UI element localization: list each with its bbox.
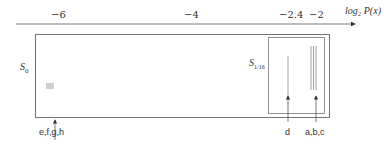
group-label-d: d	[285, 128, 290, 137]
tick-label: −2.4	[279, 10, 303, 20]
efgh-ticks	[47, 83, 53, 89]
set-s1-16-label: S1/16	[249, 58, 265, 70]
axis-label: log₂ P(x)	[345, 6, 381, 16]
set-s1-16-subscript: 1/16	[254, 64, 265, 70]
set-s0-box	[36, 35, 330, 118]
tick-label: −2	[309, 10, 324, 20]
abc-lines	[311, 46, 316, 90]
diagram-canvas	[0, 0, 392, 147]
group-label-efgh: e,f,g,h	[39, 128, 64, 137]
set-s0-label: S0	[20, 62, 29, 75]
tick-label: −4	[184, 10, 199, 20]
tick-label: −6	[51, 10, 66, 20]
group-label-abc: a,b,c	[305, 128, 325, 137]
set-s0-subscript: 0	[25, 67, 29, 75]
